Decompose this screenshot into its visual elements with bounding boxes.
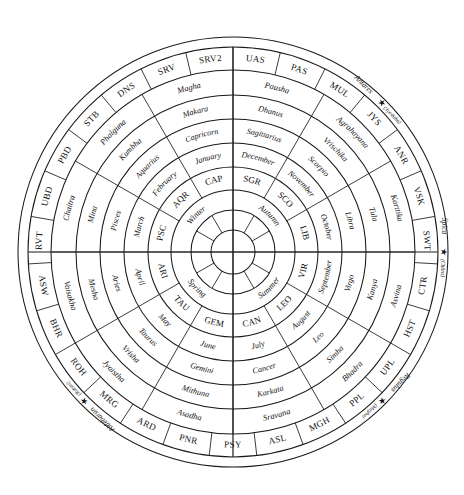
canvas-background (0, 0, 464, 495)
cell-nakshatra_abbrev-20: RVT (34, 231, 45, 250)
star-name: Spica (440, 218, 449, 235)
cell-nakshatra_abbrev-13: PSY (224, 439, 242, 449)
zodiac-calendar-wheel: UASPASMULJYSANRVSKSWTCTRHSTUPLPPLMGHASLP… (0, 0, 464, 495)
star-nakshatra: (Chitra) (439, 259, 446, 277)
star-glyph-icon: ★ (439, 248, 449, 256)
cell-nakshatra_abbrev-6: SWT (421, 230, 432, 251)
